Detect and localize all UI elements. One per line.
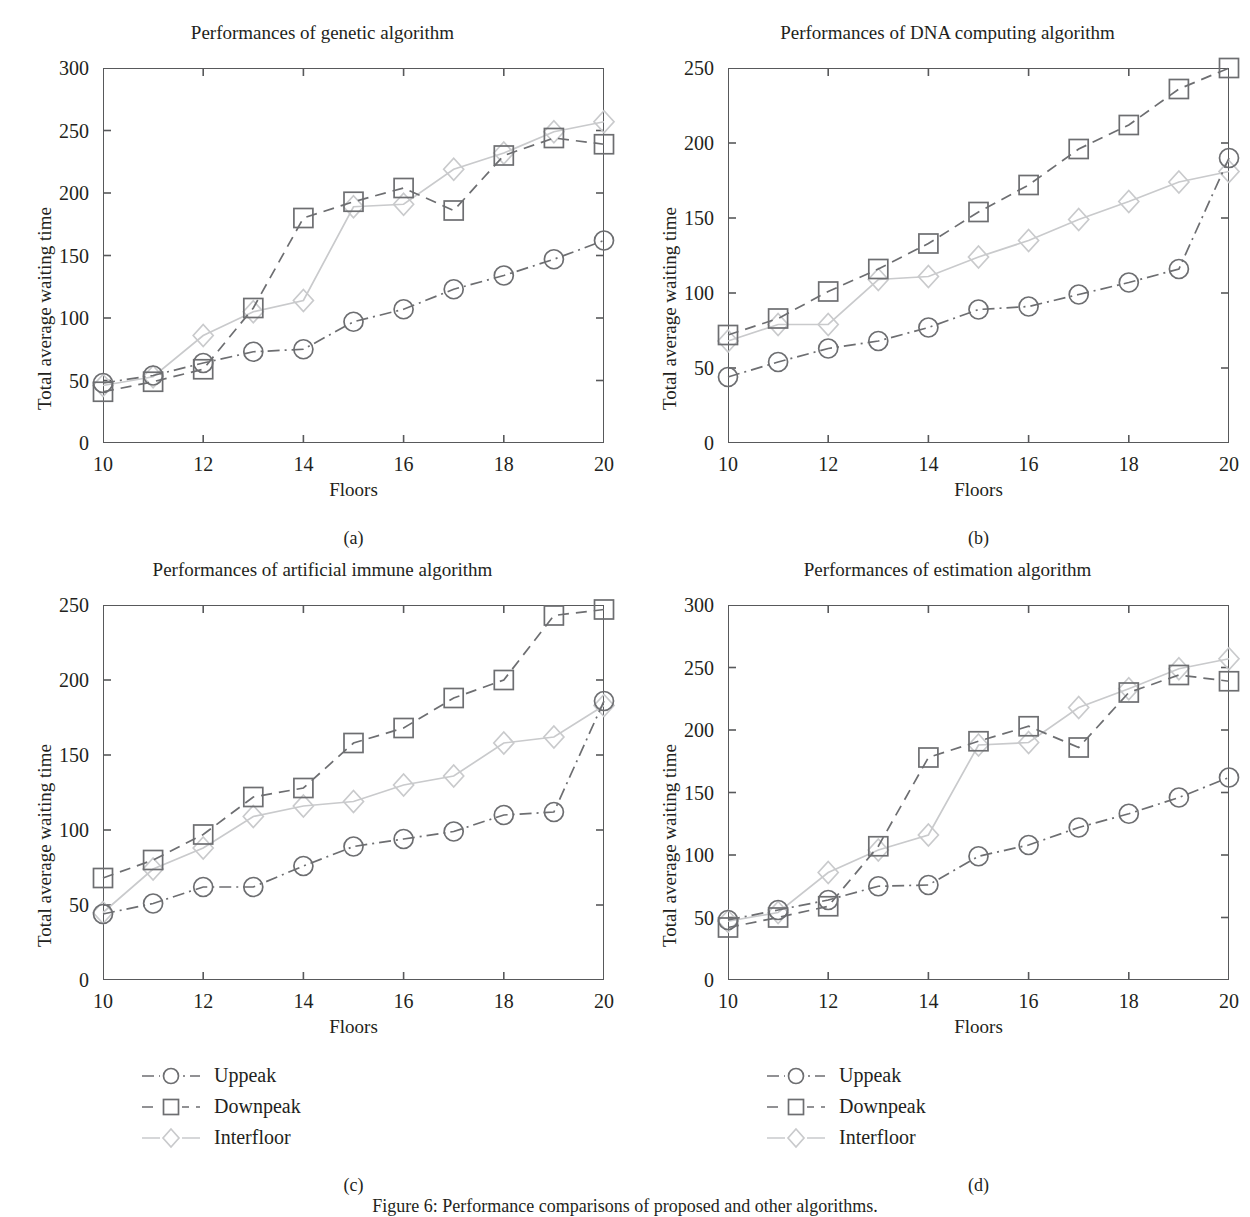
legend-label: Downpeak bbox=[839, 1095, 926, 1118]
x-tick-label: 14 bbox=[898, 453, 958, 476]
x-tick-label: 16 bbox=[999, 453, 1059, 476]
y-tick-label: 50 bbox=[644, 906, 714, 929]
panel-d-title: Performances of estimation algorithm bbox=[665, 559, 1230, 581]
x-tick-label: 12 bbox=[798, 990, 858, 1013]
x-tick-label: 16 bbox=[999, 990, 1059, 1013]
x-tick-label: 12 bbox=[173, 453, 233, 476]
x-tick-label: 18 bbox=[474, 453, 534, 476]
x-tick-label: 14 bbox=[898, 990, 958, 1013]
x-tick-label: 12 bbox=[798, 453, 858, 476]
x-tick-label: 18 bbox=[1099, 453, 1159, 476]
y-tick-label: 100 bbox=[644, 844, 714, 867]
panel-c-title: Performances of artificial immune algori… bbox=[40, 559, 605, 581]
panel-b-yaxis-title: Total average waiting time bbox=[659, 207, 681, 410]
panel-c-yaxis-title: Total average waiting time bbox=[34, 744, 56, 947]
panel-b-series bbox=[728, 68, 1229, 443]
y-tick-label: 200 bbox=[19, 182, 89, 205]
downpeak-marker-icon bbox=[765, 1095, 827, 1119]
x-tick-label: 10 bbox=[698, 990, 758, 1013]
x-tick-label: 18 bbox=[1099, 990, 1159, 1013]
y-tick-label: 300 bbox=[644, 594, 714, 617]
panel-a-plot-area: 050100150200250300101214161820 bbox=[103, 68, 604, 443]
panel-b-xaxis-title: Floors bbox=[728, 479, 1229, 501]
y-tick-label: 100 bbox=[19, 819, 89, 842]
x-tick-label: 10 bbox=[73, 453, 133, 476]
x-tick-label: 18 bbox=[474, 990, 534, 1013]
y-tick-label: 0 bbox=[644, 969, 714, 992]
panel-c-sub-label: (c) bbox=[103, 1175, 604, 1196]
panel-a: Performances of genetic algorithm Total … bbox=[0, 18, 625, 518]
panel-d-xaxis-title: Floors bbox=[728, 1016, 1229, 1038]
panel-c-plot-area: 050100150200250101214161820 bbox=[103, 605, 604, 980]
legend-label: Uppeak bbox=[839, 1064, 901, 1087]
y-tick-label: 200 bbox=[19, 669, 89, 692]
legend-label: Interfloor bbox=[839, 1126, 916, 1149]
legend-item-uppeak[interactable]: Uppeak bbox=[140, 1060, 301, 1091]
legend-label: Uppeak bbox=[214, 1064, 276, 1087]
panel-d-sub-label: (d) bbox=[728, 1175, 1229, 1196]
panel-a-title: Performances of genetic algorithm bbox=[40, 22, 605, 44]
y-tick-label: 0 bbox=[19, 969, 89, 992]
y-tick-label: 250 bbox=[644, 656, 714, 679]
legend-item-downpeak[interactable]: Downpeak bbox=[765, 1091, 926, 1122]
x-tick-label: 14 bbox=[273, 453, 333, 476]
legend-item-downpeak[interactable]: Downpeak bbox=[140, 1091, 301, 1122]
panel-d-legend: Uppeak Downpeak Interfloor bbox=[765, 1060, 926, 1153]
interfloor-marker-icon bbox=[140, 1126, 202, 1150]
y-tick-label: 250 bbox=[644, 57, 714, 80]
y-tick-label: 150 bbox=[19, 744, 89, 767]
y-tick-label: 300 bbox=[19, 57, 89, 80]
panel-c: Performances of artificial immune algori… bbox=[0, 555, 625, 1055]
y-tick-label: 50 bbox=[19, 894, 89, 917]
panel-b-title: Performances of DNA computing algorithm bbox=[665, 22, 1230, 44]
x-tick-label: 14 bbox=[273, 990, 333, 1013]
interfloor-marker-icon bbox=[765, 1126, 827, 1150]
x-tick-label: 10 bbox=[698, 453, 758, 476]
y-tick-label: 150 bbox=[644, 781, 714, 804]
y-tick-label: 200 bbox=[644, 132, 714, 155]
figure-caption: Figure 6: Performance comparisons of pro… bbox=[0, 1196, 1250, 1217]
x-tick-label: 16 bbox=[374, 453, 434, 476]
y-tick-label: 50 bbox=[644, 357, 714, 380]
panel-b-plot-area: 050100150200250101214161820 bbox=[728, 68, 1229, 443]
panel-a-series bbox=[103, 68, 604, 443]
legend-item-interfloor[interactable]: Interfloor bbox=[140, 1122, 301, 1153]
y-tick-label: 0 bbox=[19, 432, 89, 455]
legend-label: Downpeak bbox=[214, 1095, 301, 1118]
y-tick-label: 0 bbox=[644, 432, 714, 455]
y-tick-label: 200 bbox=[644, 719, 714, 742]
panel-a-xaxis-title: Floors bbox=[103, 479, 604, 501]
y-tick-label: 150 bbox=[644, 207, 714, 230]
panel-d-plot-area: 050100150200250300101214161820 bbox=[728, 605, 1229, 980]
panel-c-legend: Uppeak Downpeak Interfloor bbox=[140, 1060, 301, 1153]
y-tick-label: 100 bbox=[644, 282, 714, 305]
legend-item-interfloor[interactable]: Interfloor bbox=[765, 1122, 926, 1153]
panel-b: Performances of DNA computing algorithm … bbox=[625, 18, 1250, 518]
uppeak-marker-icon bbox=[140, 1064, 202, 1088]
x-tick-label: 10 bbox=[73, 990, 133, 1013]
panel-a-sub-label: (a) bbox=[103, 528, 604, 549]
legend-label: Interfloor bbox=[214, 1126, 291, 1149]
x-tick-label: 20 bbox=[1199, 453, 1250, 476]
x-tick-label: 12 bbox=[173, 990, 233, 1013]
panel-c-series bbox=[103, 605, 604, 980]
y-tick-label: 100 bbox=[19, 307, 89, 330]
y-tick-label: 250 bbox=[19, 119, 89, 142]
panel-d: Performances of estimation algorithm Tot… bbox=[625, 555, 1250, 1055]
legend-item-uppeak[interactable]: Uppeak bbox=[765, 1060, 926, 1091]
y-tick-label: 250 bbox=[19, 594, 89, 617]
panel-c-xaxis-title: Floors bbox=[103, 1016, 604, 1038]
downpeak-marker-icon bbox=[140, 1095, 202, 1119]
x-tick-label: 16 bbox=[374, 990, 434, 1013]
panel-b-sub-label: (b) bbox=[728, 528, 1229, 549]
x-tick-label: 20 bbox=[1199, 990, 1250, 1013]
panel-d-series bbox=[728, 605, 1229, 980]
y-tick-label: 150 bbox=[19, 244, 89, 267]
uppeak-marker-icon bbox=[765, 1064, 827, 1088]
y-tick-label: 50 bbox=[19, 369, 89, 392]
